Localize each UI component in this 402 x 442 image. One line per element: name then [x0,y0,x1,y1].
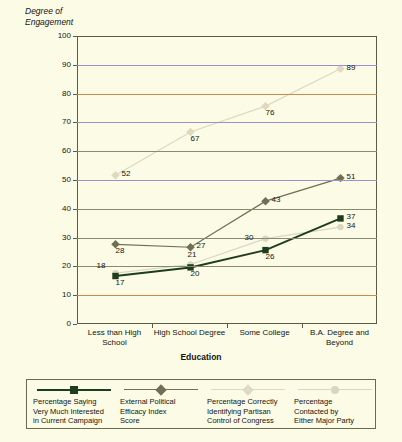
data-point-label: 17 [116,278,125,287]
data-point-label: 26 [266,252,275,261]
series-marker [336,174,344,182]
y-axis-tick-mark [73,36,77,37]
y-axis-tick-mark [73,180,77,181]
data-point-label: 67 [191,134,200,143]
data-point-label: 52 [122,169,131,178]
series-line [116,178,341,247]
legend-marker [242,384,253,395]
y-axis-tick-label: 60 [41,146,71,155]
data-point-label: 20 [191,269,200,278]
data-point-label: 51 [347,172,356,181]
y-axis-tick-label: 30 [41,233,71,242]
x-axis-title: Education [0,352,402,362]
data-point-label: 89 [347,63,356,72]
data-point-label: 37 [347,212,356,221]
y-axis-tick-mark [73,65,77,66]
legend-label: Percentage Contacted by Either Major Par… [292,397,378,426]
y-axis-tick-mark [73,209,77,210]
legend-label: External Political Efficacy Index Score [118,397,204,426]
series-marker [337,215,343,221]
y-axis-tick-label: 40 [41,204,71,213]
y-axis-title: Degree of Engagement [25,6,73,28]
legend-marker [70,386,78,394]
chart-legend: Percentage Saying Very Much Interested i… [26,379,376,429]
legend-marker [331,386,339,394]
x-axis-category-label: High School Degree [152,328,228,338]
gridline [77,151,377,152]
y-axis-tick-label: 20 [41,261,71,270]
legend-item[interactable]: Percentage Correctly Identifying Partisa… [205,385,291,426]
x-axis-category-label: Some College [227,328,303,338]
y-axis-tick-mark [73,266,77,267]
series-marker [337,224,343,230]
data-point-label: 30 [245,233,254,242]
y-axis-tick-label: 80 [41,89,71,98]
y-axis-tick-label: 10 [41,290,71,299]
x-axis-category-label: B.A. Degree and Beyond [302,328,378,348]
data-point-label: 27 [197,241,206,250]
series-marker [261,197,269,205]
y-axis-tick-label: 70 [41,117,71,126]
y-axis-tick-mark [73,324,77,325]
legend-item[interactable]: External Political Efficacy Index Score [118,385,204,426]
legend-label: Percentage Saying Very Much Interested i… [31,397,117,426]
data-point-label: 21 [188,250,197,259]
legend-marker [155,384,166,395]
series-line [116,218,341,276]
y-axis-tick-label: 100 [41,31,71,40]
y-axis-tick-label: 50 [41,175,71,184]
y-axis-tick-mark [73,151,77,152]
y-axis-tick-label: 90 [41,60,71,69]
data-point-label: 34 [347,221,356,230]
legend-swatch [298,385,372,395]
y-axis-tick-label: 0 [41,319,71,328]
legend-label: Percentage Correctly Identifying Partisa… [205,397,291,426]
data-point-label: 18 [97,261,106,270]
y-axis-tick-mark [73,238,77,239]
y-axis-tick-mark [73,122,77,123]
gridline [77,94,377,95]
legend-item[interactable]: Percentage Saying Very Much Interested i… [31,385,117,426]
gridline [77,209,377,210]
gridline [77,122,377,123]
legend-item[interactable]: Percentage Contacted by Either Major Par… [292,385,378,426]
gridline [77,266,377,267]
chart-root: Degree of Engagement 0102030405060708090… [0,0,402,442]
gridline [77,180,377,181]
y-axis-tick-mark [73,94,77,95]
series-marker [111,171,119,179]
data-point-label: 43 [272,195,281,204]
data-point-label: 76 [266,108,275,117]
legend-swatch [211,385,285,395]
legend-swatch [37,385,111,395]
gridline [77,65,377,66]
gridline [77,295,377,296]
y-axis-tick-mark [73,295,77,296]
legend-swatch [124,385,198,395]
x-axis-category-label: Less than High School [77,328,153,348]
data-point-label: 28 [116,246,125,255]
gridline [77,238,377,239]
